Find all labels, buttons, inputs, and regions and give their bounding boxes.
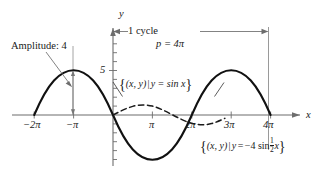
main-label-coefficient: −4 sin [245,140,270,151]
x-tick-label-3pi: 3π [224,120,235,131]
main-label-ordered-pair: (x, y) [207,140,228,151]
amplitude-annotation: Amplitude: 4 [11,41,67,52]
x-axis-label: x [306,110,311,121]
main-label-equals: = [236,140,245,151]
x-tick-label-neg-pi: −π [66,120,78,131]
main-curve-label: {(x, y)|y=−4 sin12x} [200,137,286,154]
cycle-annotation: 1 cycle [128,26,158,37]
y-axis-label: y [119,9,124,20]
sine-label-ordered-pair: (x, y) [126,78,147,89]
x-tick-label-4pi: 4π [263,120,274,131]
x-axis-arrowhead [292,112,300,118]
sine-label-expression: y = sin x [151,78,186,89]
main-label-close-brace: } [279,140,286,154]
y-tick-label-5: 5 [100,65,105,76]
amplitude-leader-line [46,52,72,87]
x-tick-label-2pi: 2π [185,120,196,131]
x-tick-label-neg-2pi: −2π [23,120,41,131]
sine-curve-label: {(x, y)|y = sin x} [119,78,192,92]
main-label-open-brace: { [200,140,207,154]
trig-graph-figure: y x 5 −2π −π π 2π 3π 4π Amplitude: 4 1 c… [0,0,328,176]
amplitude-arrow [71,71,75,115]
sine-label-close-brace: } [185,78,192,92]
sine-label-open-brace: { [119,78,126,92]
x-tick-label-pi: π [149,120,154,131]
period-annotation: p = 4π [156,39,184,50]
